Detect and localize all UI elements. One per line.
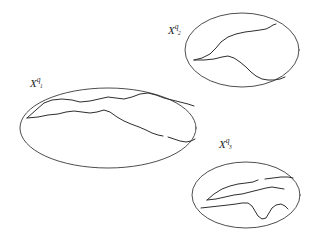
region-2-label-subscript: 2 bbox=[178, 30, 181, 36]
figure-container: Xq1 Xq2 Xq3 bbox=[0, 0, 313, 249]
region-3-label-base: X bbox=[219, 138, 226, 150]
region-3-curve-upper-left bbox=[207, 180, 258, 200]
region-1-label-base: X bbox=[30, 77, 37, 89]
region-group-2 bbox=[185, 13, 299, 87]
figure-canvas bbox=[0, 0, 313, 249]
region-1-label: Xq1 bbox=[30, 76, 43, 89]
region-3-ellipse-boundary bbox=[192, 162, 300, 228]
region-1-curve-lower bbox=[27, 110, 163, 136]
region-2-label: Xq2 bbox=[168, 23, 181, 36]
region-3-label-subscript: 3 bbox=[229, 144, 232, 150]
region-1-ellipse-boundary bbox=[20, 88, 196, 168]
region-2-label-base: X bbox=[168, 24, 175, 36]
region-3-curve-lower bbox=[201, 203, 288, 219]
region-2-ellipse-boundary bbox=[185, 13, 299, 87]
region-group-1 bbox=[20, 88, 196, 168]
region-2-curve-lower bbox=[194, 56, 285, 80]
region-1-curve-tail bbox=[168, 137, 195, 142]
region-3-curve-middle bbox=[207, 187, 284, 200]
region-1-label-subscript: 1 bbox=[40, 83, 43, 89]
region-3-curve-upper-right bbox=[265, 177, 293, 179]
region-3-label: Xq3 bbox=[219, 137, 232, 150]
region-group-3 bbox=[192, 162, 300, 228]
region-2-curve-upper bbox=[194, 24, 276, 60]
